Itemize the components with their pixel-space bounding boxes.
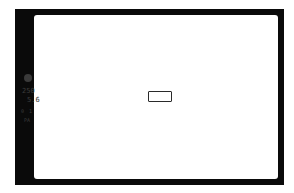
aperture-readout: 5.6 (27, 97, 40, 104)
exposure-indicator-left: 0 (21, 108, 24, 115)
exposure-indicator-right: 1 (29, 108, 32, 115)
shutter-speed-readout: 250 (22, 88, 35, 95)
focus-confirm-icon (24, 74, 32, 82)
af-point-frame (148, 91, 172, 102)
exposure-mode-readout: PA (24, 117, 30, 124)
